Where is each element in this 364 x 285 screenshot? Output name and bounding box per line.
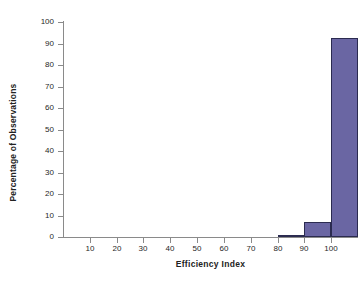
y-axis-tick-label: 40 <box>20 147 54 155</box>
histogram-bar <box>304 222 331 237</box>
y-axis-tick-label: 20 <box>20 190 54 198</box>
x-axis-line <box>63 237 358 238</box>
x-axis-tick <box>143 238 144 243</box>
histogram-bar <box>278 235 305 237</box>
y-axis-tick-label: 100 <box>20 18 54 26</box>
x-axis-tick <box>278 238 279 243</box>
x-axis-tick-label: 100 <box>316 245 346 253</box>
x-axis-tick <box>224 238 225 243</box>
histogram-bar <box>331 38 358 237</box>
y-axis-tick <box>58 237 64 238</box>
x-axis-tick-label: 40 <box>155 245 185 253</box>
x-axis-tick <box>117 238 118 243</box>
x-axis-tick-label: 50 <box>182 245 212 253</box>
x-axis-tick <box>331 238 332 243</box>
x-axis-tick <box>197 238 198 243</box>
x-axis-tick-label: 30 <box>128 245 158 253</box>
y-axis-tick-label: 0 <box>20 233 54 241</box>
histogram-chart: Percentage of Observations 0102030405060… <box>0 0 364 285</box>
y-axis-tick-label: 10 <box>20 212 54 220</box>
x-axis-tick-label: 90 <box>289 245 319 253</box>
x-axis-title: Efficiency Index <box>63 259 358 269</box>
x-axis-tick <box>170 238 171 243</box>
y-axis-tick-label: 30 <box>20 169 54 177</box>
x-axis-tick-label: 10 <box>75 245 105 253</box>
y-axis-tick-label: 60 <box>20 104 54 112</box>
y-axis-tick-label: 90 <box>20 40 54 48</box>
x-axis-tick <box>304 238 305 243</box>
x-axis-tick <box>90 238 91 243</box>
y-axis-tick-label: 80 <box>20 61 54 69</box>
y-axis-tick-label: 70 <box>20 83 54 91</box>
y-axis-tick-label: 50 <box>20 126 54 134</box>
x-axis-tick-label: 70 <box>236 245 266 253</box>
x-axis-tick-label: 60 <box>209 245 239 253</box>
x-axis-tick <box>251 238 252 243</box>
plot-area <box>63 22 358 237</box>
